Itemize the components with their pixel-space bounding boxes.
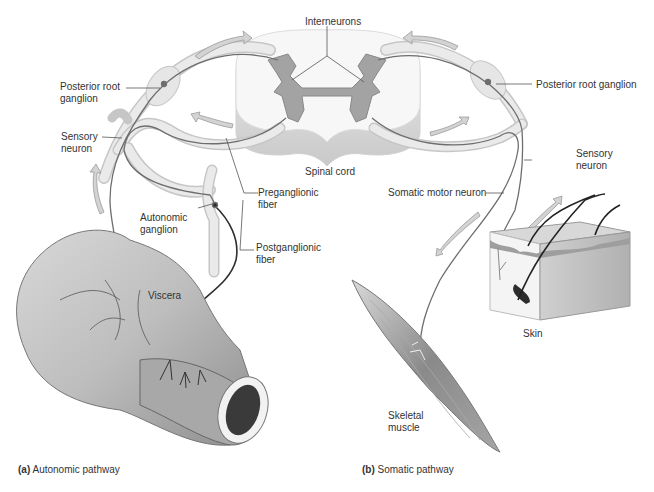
label-posterior-root-ganglion-right: Posterior root ganglion <box>536 79 637 91</box>
viscera-intestine <box>17 230 277 450</box>
label-sensory-neuron-left: Sensory neuron <box>61 131 98 155</box>
label-line: ganglion <box>60 93 120 105</box>
caption-letter: (a) <box>18 464 30 475</box>
caption-panel-b: (b) Somatic pathway <box>362 464 454 475</box>
label-spinal-cord: Spinal cord <box>305 166 355 178</box>
label-preganglionic-fiber: Preganglionic fiber <box>258 187 319 211</box>
skeletal-muscle <box>352 280 500 452</box>
label-line: Skeletal <box>388 410 424 422</box>
label-line: neuron <box>576 160 613 172</box>
label-line: Sensory <box>576 148 613 160</box>
reflex-pathways-illustration <box>0 0 654 492</box>
label-skin: Skin <box>523 328 542 340</box>
label-viscera: Viscera <box>148 290 181 302</box>
arrow-icon <box>191 112 233 128</box>
label-somatic-motor-neuron: Somatic motor neuron <box>388 187 486 199</box>
label-line: fiber <box>258 199 319 211</box>
label-line: Autonomic <box>140 212 187 224</box>
caption-letter: (b) <box>362 464 375 475</box>
label-line: ganglion <box>140 224 187 236</box>
label-postganglionic-fiber: Postganglionic fiber <box>256 242 321 266</box>
label-line: Postganglionic <box>256 242 321 254</box>
label-line: fiber <box>256 254 321 266</box>
label-autonomic-ganglion: Autonomic ganglion <box>140 212 187 236</box>
label-line: Sensory <box>61 131 98 143</box>
label-interneurons: Interneurons <box>305 16 361 28</box>
label-line: muscle <box>388 422 424 434</box>
caption-title: Autonomic pathway <box>32 464 119 475</box>
arrow-icon <box>430 117 469 136</box>
caption-panel-a: (a) Autonomic pathway <box>18 464 120 475</box>
skin-block <box>490 194 630 320</box>
label-line: neuron <box>61 143 98 155</box>
label-line: Preganglionic <box>258 187 319 199</box>
label-skeletal-muscle: Skeletal muscle <box>388 410 424 434</box>
label-sensory-neuron-right: Sensory neuron <box>576 148 613 172</box>
caption-title: Somatic pathway <box>378 464 454 475</box>
label-line: Posterior root <box>60 81 120 93</box>
label-posterior-root-ganglion-left: Posterior root ganglion <box>60 81 120 105</box>
